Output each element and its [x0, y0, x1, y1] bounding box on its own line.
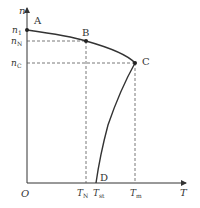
tick-Tst: T st [93, 188, 105, 199]
label-B: B [82, 27, 89, 38]
characteristic-curve [27, 30, 135, 183]
label-D: D [100, 172, 108, 183]
tick-TN: T N [77, 188, 88, 199]
point-C [133, 61, 137, 65]
tick-Tm: T m [130, 188, 142, 199]
origin-label: O [21, 188, 29, 199]
point-B [84, 39, 88, 43]
tick-n1: n 1 [12, 25, 22, 36]
svg-text:st: st [99, 192, 105, 199]
point-A [25, 28, 29, 32]
n-t-characteristic-diagram: A B C D n n 1 n N n C O T N T st T m T [0, 0, 200, 208]
svg-text:N: N [83, 192, 88, 199]
svg-text:1: 1 [18, 29, 22, 36]
label-C: C [142, 56, 150, 67]
tick-nN: n N [11, 36, 22, 47]
tick-nC: n C [11, 58, 22, 69]
y-axis-label: n [19, 5, 25, 16]
svg-text:N: N [17, 40, 22, 47]
svg-text:C: C [17, 62, 22, 69]
x-axis-label: T [180, 187, 188, 198]
label-A: A [33, 15, 42, 26]
svg-text:m: m [136, 192, 142, 199]
